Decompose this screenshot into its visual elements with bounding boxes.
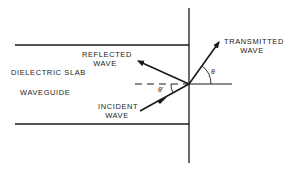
reflected-wave-label: REFLECTED WAVE: [82, 50, 128, 68]
transmitted-wave-arrow: [189, 42, 219, 84]
transmitted-line1: TRANSMITTED: [224, 37, 280, 46]
incident-wave-arrow: [140, 84, 189, 111]
incident-wave-label: INCIDENT WAVE: [98, 102, 136, 120]
diagram-canvas: [0, 0, 294, 169]
incident-line1: INCIDENT: [98, 102, 136, 111]
transmitted-wave-label: TRANSMITTED WAVE: [224, 37, 280, 55]
transmitted-line2: WAVE: [224, 46, 280, 55]
theta-label: θ: [211, 68, 215, 75]
reflected-line2: WAVE: [82, 59, 128, 68]
reflected-wave-arrow: [138, 61, 189, 84]
theta-prime-label: θ': [158, 86, 163, 93]
dielectric-slab-label: DIELECTRIC SLAB: [11, 68, 86, 77]
incident-line2: WAVE: [98, 111, 136, 120]
theta-arc: [202, 66, 211, 84]
waveguide-label: WAVEGUIDE: [20, 88, 70, 97]
reflected-line1: REFLECTED: [82, 50, 128, 59]
theta-prime-arc: [171, 84, 173, 93]
